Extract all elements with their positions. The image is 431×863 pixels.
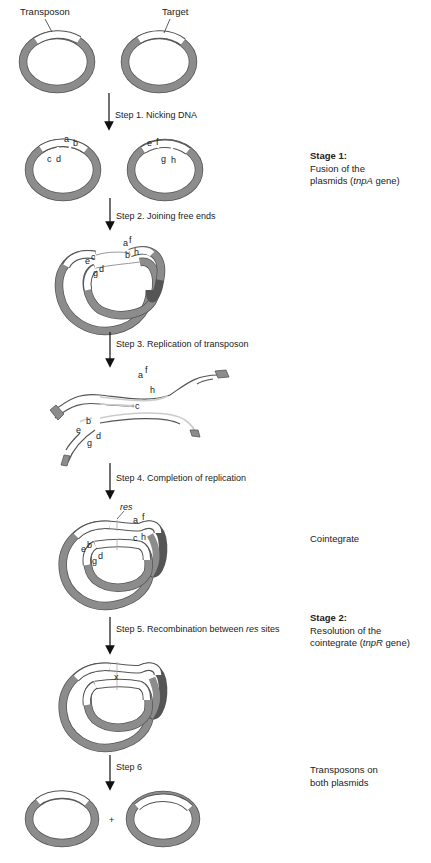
plus-sign: + — [109, 815, 114, 825]
transposition-diagram: Transposon Target Step 1. Nicking DNA a … — [0, 0, 431, 863]
recombining-cointegrate — [63, 662, 163, 748]
fused-end-h: h — [134, 247, 139, 257]
end-e: e — [147, 138, 152, 148]
coint-end-g: g — [92, 556, 97, 566]
coint-end-c: c — [133, 533, 138, 543]
transposon-label: Transposon — [20, 6, 70, 17]
fused-end-d: d — [99, 264, 104, 274]
rep-end-d: d — [96, 431, 101, 441]
step4-label: Step 4. Completion of replication — [116, 473, 246, 483]
end-b: b — [73, 138, 78, 148]
rep-end-a: a — [138, 370, 143, 380]
end-c: c — [47, 154, 52, 164]
target-plasmid — [125, 35, 193, 89]
stage2-note: Stage 2: Resolution of the cointegrate (… — [310, 612, 410, 650]
fused-end-c: c — [91, 252, 96, 262]
rep-end-c: c — [135, 401, 140, 411]
final-line1: Transposons on — [310, 764, 378, 775]
coint-end-b: b — [87, 540, 92, 550]
rep-end-e: e — [76, 425, 81, 435]
coint-end-d: d — [98, 551, 103, 561]
end-h: h — [171, 155, 176, 165]
stage1-note: Stage 1: Fusion of the plasmids (tnpA ge… — [310, 150, 400, 188]
rep-end-b: b — [86, 416, 91, 426]
final-note: Transposons on both plasmids — [310, 764, 378, 789]
stage1-line1: Fusion of the — [310, 163, 365, 174]
target-label: Target — [162, 6, 189, 17]
stage2-line1: Resolution of the — [310, 625, 381, 636]
final-line2: both plasmids — [310, 777, 369, 788]
step5-label: Step 5. Recombination between res sites — [116, 624, 280, 634]
coint-end-h: h — [141, 532, 146, 542]
replication-strands — [50, 370, 229, 466]
fused-end-f: f — [129, 235, 132, 245]
stage2-line2: cointegrate (tnpR gene) — [310, 637, 410, 648]
coint-end-a: a — [133, 515, 138, 525]
final-plasmid-right — [130, 795, 196, 843]
res-label: res — [120, 502, 133, 512]
crossover-mark: x — [114, 672, 119, 682]
end-a: a — [64, 134, 69, 144]
fused-end-e: e — [85, 256, 90, 266]
step2-label: Step 2. Joining free ends — [116, 211, 216, 221]
transposon-pointer — [45, 19, 52, 32]
transposon-plasmid — [23, 34, 91, 89]
coint-end-e: e — [81, 544, 86, 554]
end-d: d — [56, 154, 61, 164]
cointegrate-note: Cointegrate — [310, 533, 359, 546]
rep-end-g: g — [87, 438, 92, 448]
fused-end-b: b — [125, 250, 130, 260]
cointegrate — [63, 511, 163, 606]
cointegrate-label: Cointegrate — [310, 533, 359, 544]
fused-end-a: a — [123, 238, 128, 248]
rep-end-h: h — [150, 385, 155, 395]
fused-end-g: g — [93, 268, 98, 278]
stage1-title: Stage 1: — [310, 150, 347, 161]
rep-end-f: f — [145, 365, 148, 375]
step6-label: Step 6 — [116, 762, 142, 772]
end-g: g — [161, 154, 166, 164]
step3-label: Step 3. Replication of transposon — [116, 339, 249, 349]
stage2-title: Stage 2: — [310, 612, 347, 623]
step1-label: Step 1. Nicking DNA — [115, 110, 197, 120]
coint-end-f: f — [142, 512, 145, 522]
nicked-transposon-plasmid — [29, 141, 97, 197]
final-plasmid-left — [29, 795, 95, 843]
nicked-target-plasmid — [131, 141, 199, 197]
fused-plasmids — [59, 250, 161, 331]
stage1-line2: plasmids (tnpA gene) — [310, 175, 400, 186]
